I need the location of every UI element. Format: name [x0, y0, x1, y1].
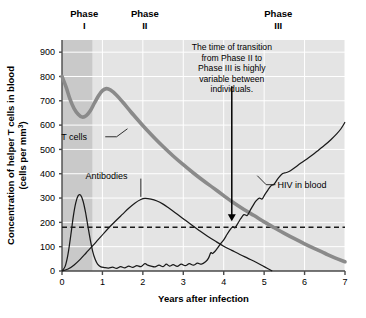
y-tick-label: 800: [40, 72, 55, 82]
series-label-antibodies: Antibodies: [85, 171, 128, 181]
y-tick-label: 0: [50, 266, 55, 276]
y-axis-tick-labels: 0100200300400500600700800900: [40, 47, 55, 276]
annotation-text-line: from Phase II to: [201, 53, 262, 63]
y-axis-title-line2: (cells per mm3): [17, 121, 29, 189]
y-axis-title-group: Concentration of helper T cells in blood…: [5, 66, 28, 245]
y-tick-label: 400: [40, 169, 55, 179]
phase-one-shaded-region: [62, 40, 92, 271]
phase-header-name: Phase: [70, 8, 98, 19]
y-tick-label: 900: [40, 47, 55, 57]
annotation-text-line: Phase III is highly: [198, 63, 266, 73]
x-tick-label: 0: [59, 277, 64, 287]
y-tick-label: 200: [40, 218, 55, 228]
x-tick-label: 2: [140, 277, 145, 287]
hiv-progression-chart: 0100200300400500600700800900 01234567 Ph…: [0, 0, 366, 318]
x-tick-label: 5: [262, 277, 267, 287]
figure-container: 0100200300400500600700800900 01234567 Ph…: [0, 0, 366, 318]
x-tick-label: 1: [100, 277, 105, 287]
series-label-hiv-in-blood: HIV in blood: [277, 180, 326, 190]
x-tick-label: 4: [221, 277, 226, 287]
series-label-t-cells: T cells: [61, 132, 87, 142]
phase-header-numeral: III: [274, 20, 282, 31]
annotation-text-line: variable between: [199, 74, 264, 84]
phase-header-numeral: I: [83, 20, 86, 31]
phase-header-numeral: II: [142, 20, 147, 31]
y-axis-units-text: (cells per mm: [17, 128, 28, 189]
y-tick-label: 600: [40, 120, 55, 130]
x-axis-tick-labels: 01234567: [59, 277, 347, 287]
y-axis-units-close: ): [17, 121, 28, 124]
y-tick-label: 700: [40, 96, 55, 106]
y-tick-label: 300: [40, 193, 55, 203]
phase-header-name: Phase: [131, 8, 159, 19]
y-tick-label: 500: [40, 145, 55, 155]
phase-headers: PhaseIPhaseIIPhaseIII: [70, 8, 292, 31]
annotation-text-line: The time of transition: [192, 42, 272, 52]
x-axis-title: Years after infection: [158, 293, 249, 304]
x-tick-label: 3: [181, 277, 186, 287]
x-tick-label: 6: [302, 277, 307, 287]
phase-header-name: Phase: [264, 8, 292, 19]
y-tick-label: 100: [40, 242, 55, 252]
x-tick-label: 7: [342, 277, 347, 287]
y-axis-title-line1: Concentration of helper T cells in blood: [5, 66, 16, 245]
